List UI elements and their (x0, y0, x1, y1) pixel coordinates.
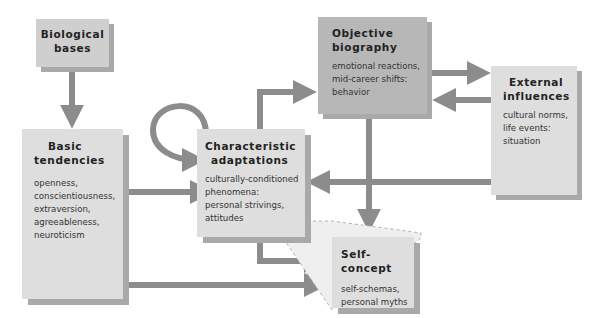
characteristic-item: attitudes (205, 212, 305, 225)
objective-item: behavior (332, 86, 427, 99)
node-self-concept: Self-concept self-schemas, personal myth… (332, 237, 414, 308)
external-items: cultural norms, life events: situation (503, 109, 577, 148)
trait-agreeableness: agreeableness, (34, 216, 123, 229)
characteristic-item: phenomena: (205, 186, 305, 199)
characteristic-title-2: adaptations (205, 153, 305, 167)
characteristic-item: culturally-conditioned (205, 173, 305, 186)
characteristic-items: culturally-conditioned phenomena: person… (205, 173, 305, 225)
objective-item: mid-career shifts: (332, 73, 427, 86)
selfconcept-title: Self-concept (341, 247, 414, 275)
objective-title-2: biography (332, 40, 427, 54)
basic-title-2: tendencies (34, 153, 123, 167)
characteristic-item: personal strivings, (205, 199, 305, 212)
node-objective-biography: Objective biography emotional reactions,… (318, 17, 427, 114)
characteristic-title-1: Characteristic (205, 139, 305, 153)
arrow-characteristic-to-objective (260, 92, 306, 129)
trait-conscientiousness: conscientiousness, (34, 190, 123, 203)
basic-title-1: Basic (34, 139, 123, 153)
external-title-2: influences (503, 89, 577, 103)
basic-traits-list: openness, conscientiousness, extraversio… (34, 177, 123, 242)
objective-item: emotional reactions, (332, 60, 427, 73)
node-biological-bases: Biological bases (36, 19, 109, 67)
node-external-influences: External influences cultural norms, life… (491, 66, 577, 195)
external-item: life events: (503, 122, 577, 135)
external-item: cultural norms, (503, 109, 577, 122)
external-title-1: External (503, 75, 577, 89)
node-basic-tendencies: Basic tendencies openness, conscientious… (22, 129, 123, 299)
node-characteristic-adaptations: Characteristic adaptations culturally-co… (197, 129, 305, 237)
trait-extraversion: extraversion, (34, 203, 123, 216)
selfconcept-item: self-schemas, (341, 283, 414, 296)
external-item: situation (503, 135, 577, 148)
objective-title-1: Objective (332, 26, 427, 40)
selfconcept-item: personal myths (341, 296, 414, 309)
biological-title-1: Biological (36, 27, 109, 41)
biological-title-2: bases (36, 41, 109, 55)
objective-items: emotional reactions, mid-career shifts: … (332, 60, 427, 99)
trait-openness: openness, (34, 177, 123, 190)
selfconcept-items: self-schemas, personal myths (341, 283, 414, 309)
trait-neuroticism: neuroticism (34, 229, 123, 242)
